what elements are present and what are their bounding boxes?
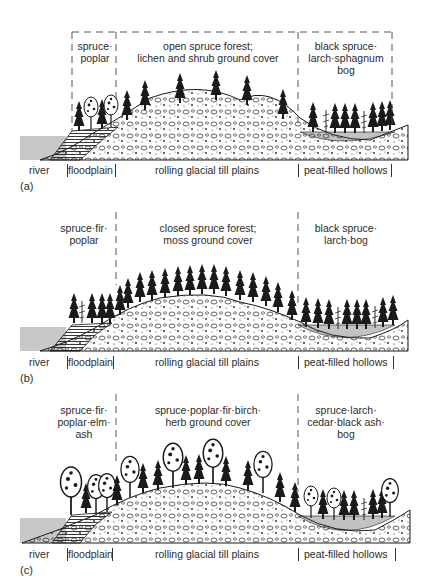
hollows-label-a: peat-filled hollows xyxy=(304,164,387,176)
label-line: ash xyxy=(54,428,114,440)
bog-veg-label-b: black spruce· larch·bog xyxy=(300,222,392,246)
till-label-a: rolling glacial till plains xyxy=(155,164,259,176)
label-line: lichen and shrub ground cover xyxy=(118,52,298,64)
bog-trees xyxy=(301,295,399,329)
tick xyxy=(395,548,396,561)
river-label-b: river xyxy=(29,356,49,368)
tick xyxy=(113,356,114,369)
hollows-label-c: peat-filled hollows xyxy=(304,548,387,560)
label-line: larch·bog xyxy=(300,234,392,246)
tick xyxy=(298,164,299,177)
panel-a: spruce· poplar open spruce forest; liche… xyxy=(0,0,426,195)
till-label-c: rolling glacial till plains xyxy=(155,548,259,560)
label-line: larch·sphagnum xyxy=(300,52,392,64)
upland-veg-label-b: closed spruce forest; moss ground cover xyxy=(118,222,298,246)
label-line: open spruce forest; xyxy=(118,40,298,52)
floodplain-label-b: floodplain xyxy=(68,356,113,368)
till-label-b: rolling glacial till plains xyxy=(155,356,259,368)
tick xyxy=(393,356,394,369)
bog-veg-label-a: black spruce· larch·sphagnum bog xyxy=(300,40,392,76)
label-line: bog xyxy=(300,428,392,440)
river-label-c: river xyxy=(29,548,49,560)
tick xyxy=(298,548,299,561)
upland-veg-label-a: open spruce forest; lichen and shrub gro… xyxy=(118,40,298,64)
label-line: black spruce· xyxy=(300,40,392,52)
label-line: herb ground cover xyxy=(118,416,298,428)
label-line: spruce· xyxy=(74,40,116,52)
tick xyxy=(115,164,116,177)
label-line: poplar·elm· xyxy=(54,416,114,428)
label-line: spruce·larch· xyxy=(300,404,392,416)
label-line: spruce·poplar·fir·birch· xyxy=(118,404,298,416)
floodplain-veg-label-a: spruce· poplar xyxy=(74,40,116,64)
label-line: black spruce· xyxy=(300,222,392,234)
label-line: cedar·black ash· xyxy=(300,416,392,428)
floodplain-label-c: floodplain xyxy=(68,548,113,560)
river-label-a: river xyxy=(29,164,49,176)
panel-c: spruce·fir· poplar·elm· ash spruce·popla… xyxy=(0,380,426,581)
hollows-label-b: peat-filled hollows xyxy=(304,356,387,368)
tick xyxy=(391,164,392,177)
label-line: closed spruce forest; xyxy=(118,222,298,234)
floodplain-veg-label-b: spruce·fir· poplar xyxy=(54,222,114,246)
label-line: spruce·fir· xyxy=(54,222,114,234)
bog-veg-label-c: spruce·larch· cedar·black ash· bog xyxy=(300,404,392,440)
panel-letter-c: (c) xyxy=(20,564,33,576)
label-line: poplar xyxy=(74,52,116,64)
floodplain-label-a: floodplain xyxy=(68,164,113,176)
bog-trees xyxy=(304,479,398,520)
label-line: bog xyxy=(300,64,392,76)
tick xyxy=(112,548,113,561)
tick xyxy=(298,356,299,369)
panel-b: spruce·fir· poplar closed spruce forest;… xyxy=(0,190,426,385)
label-line: spruce·fir· xyxy=(54,404,114,416)
label-line: moss ground cover xyxy=(118,234,298,246)
floodplain-veg-label-c: spruce·fir· poplar·elm· ash xyxy=(54,404,114,440)
upland-veg-label-c: spruce·poplar·fir·birch· herb ground cov… xyxy=(118,404,298,428)
label-line: poplar xyxy=(54,234,114,246)
